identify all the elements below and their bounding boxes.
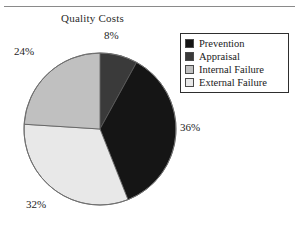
legend-swatch-external-failure [185, 78, 194, 87]
slice-label-external-failure: 32% [26, 198, 46, 210]
legend-item-prevention: Prevention [185, 37, 284, 50]
slice-label-prevention: 36% [180, 121, 200, 133]
legend-item-appraisal: Appraisal [185, 50, 284, 63]
legend-swatch-prevention [185, 39, 194, 48]
legend-label-internal-failure: Internal Failure [199, 63, 264, 76]
legend-label-prevention: Prevention [199, 37, 245, 50]
legend-item-external-failure: External Failure [185, 76, 284, 89]
legend-label-external-failure: External Failure [199, 76, 267, 89]
legend-item-internal-failure: Internal Failure [185, 63, 284, 76]
slice-label-internal-failure: 24% [14, 45, 34, 57]
legend-label-appraisal: Appraisal [199, 50, 240, 63]
legend-swatch-appraisal [185, 52, 194, 61]
pie-slice-internal-failure [24, 53, 100, 129]
quality-costs-figure: Quality Costs 8% 24% 36% 32% Prevention … [0, 0, 299, 226]
legend-swatch-internal-failure [185, 65, 194, 74]
legend: Prevention Appraisal Internal Failure Ex… [180, 33, 289, 93]
slice-label-appraisal: 8% [104, 29, 119, 41]
